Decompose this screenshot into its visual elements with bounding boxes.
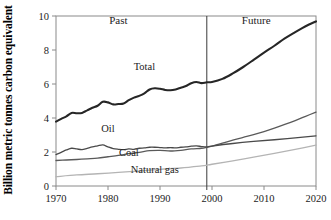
chart-figure: Billion metric tonnes carbon equivalent … — [0, 0, 331, 220]
y-tick-label: 0 — [44, 181, 49, 192]
x-axis-ticks: 197019801990200020102020 — [46, 186, 327, 204]
x-tick-label: 1990 — [150, 193, 171, 204]
chart-plot-area: 197019801990200020102020 0246810 PastFut… — [0, 0, 331, 220]
annotation-past: Past — [109, 14, 127, 26]
series-lines — [56, 21, 316, 176]
x-tick-label: 1980 — [98, 193, 119, 204]
x-tick-label: 2010 — [254, 193, 275, 204]
y-tick-label: 10 — [39, 11, 50, 22]
annotation-oil: Oil — [101, 123, 115, 134]
y-tick-label: 2 — [44, 147, 49, 158]
y-tick-label: 6 — [44, 79, 49, 90]
annotation-coal: Coal — [119, 147, 139, 158]
series-line-total — [56, 21, 316, 121]
series-line-oil — [56, 136, 316, 155]
y-tick-label: 8 — [44, 45, 49, 56]
annotation-future: Future — [242, 14, 271, 26]
y-axis-ticks: 0246810 — [39, 11, 57, 192]
x-tick-label: 1970 — [46, 193, 67, 204]
plot-frame — [56, 16, 316, 186]
annotation-natural-gas: Natural gas — [131, 164, 179, 175]
chart-annotations: PastFutureTotalOilCoalNatural gas — [101, 14, 270, 175]
x-tick-label: 2000 — [202, 193, 223, 204]
y-tick-label: 4 — [44, 113, 50, 124]
x-tick-label: 2020 — [306, 193, 327, 204]
annotation-total: Total — [134, 61, 156, 72]
